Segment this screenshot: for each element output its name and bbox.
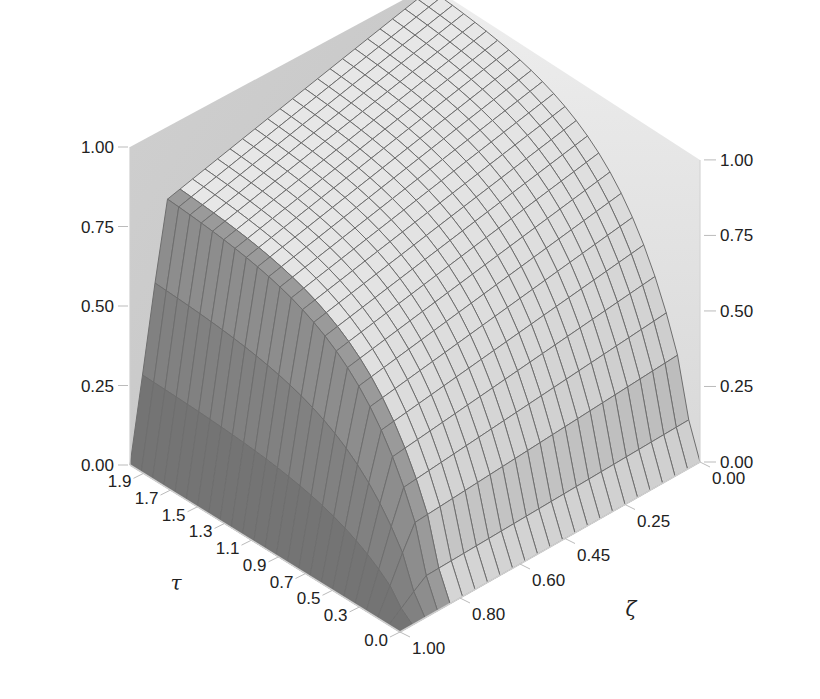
tau-tick-mark: [161, 490, 171, 495]
z-left-tick-label: 0.75: [81, 218, 114, 237]
z-right-tick-label: 0.75: [720, 226, 753, 245]
zeta-tick-mark: [400, 632, 410, 637]
tau-tick-mark: [188, 507, 198, 512]
zeta-tick-label: 1.00: [412, 639, 445, 658]
tau-tick-label: 1.1: [216, 539, 240, 558]
z-left-tick-label: 0.25: [81, 377, 114, 396]
surface-mesh: [130, 0, 700, 632]
tau-axis-label: τ: [170, 571, 182, 595]
tau-tick-mark: [390, 632, 400, 637]
zeta-tick-mark: [565, 539, 575, 544]
tau-tick-mark: [269, 557, 279, 562]
z-right-tick-label: 0.50: [720, 302, 753, 321]
tau-tick-label: 1.7: [135, 489, 159, 508]
zeta-tick-label: 0.25: [637, 512, 670, 531]
tau-tick-mark: [134, 473, 144, 478]
tau-tick-mark: [350, 607, 360, 612]
tau-tick-label: 0.5: [297, 589, 321, 608]
tau-tick-label: 1.9: [108, 472, 132, 491]
zeta-axis-label: ζ: [626, 597, 638, 621]
tau-tick-mark: [323, 590, 333, 595]
zeta-tick-mark: [625, 505, 635, 510]
tau-tick-label: 1.3: [189, 522, 213, 541]
zeta-tick-label: 0.00: [712, 469, 745, 488]
tau-tick-label: 1.5: [162, 506, 186, 525]
zeta-tick-mark: [520, 564, 530, 569]
z-left-tick-label: 0.50: [81, 297, 114, 316]
zeta-tick-label: 0.45: [577, 546, 610, 565]
tau-tick-label: 0.0: [364, 631, 388, 650]
zeta-tick-mark: [700, 462, 710, 467]
z-right-tick-label: 1.00: [720, 151, 753, 170]
tau-tick-label: 0.9: [243, 556, 267, 575]
tau-tick-label: 0.3: [324, 606, 348, 625]
zeta-tick-label: 0.60: [532, 571, 565, 590]
tau-tick-mark: [242, 540, 252, 545]
tau-tick-mark: [296, 574, 306, 579]
tau-tick-label: 0.7: [270, 573, 294, 592]
z-left-tick-label: 1.00: [81, 138, 114, 157]
zeta-tick-mark: [460, 598, 470, 603]
zeta-tick-label: 0.80: [472, 605, 505, 624]
tau-tick-mark: [215, 523, 225, 528]
surface-plot: 0.000.250.500.751.000.000.250.500.751.00…: [0, 0, 820, 699]
z-right-tick-label: 0.25: [720, 377, 753, 396]
